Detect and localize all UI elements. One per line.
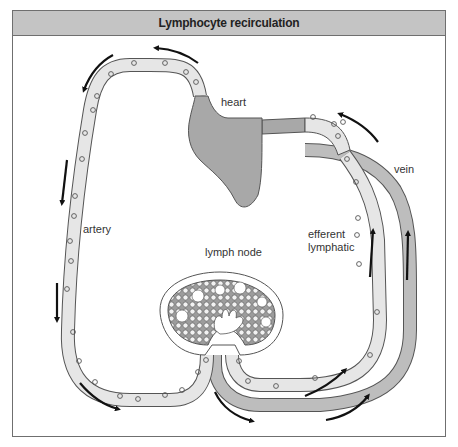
- label-heart: heart: [221, 96, 246, 109]
- heart-outflow: [262, 118, 305, 134]
- arrow-left-mid: [62, 160, 67, 203]
- label-efferent: efferent: [308, 228, 345, 241]
- label-lymph-node: lymph node: [205, 246, 262, 259]
- lymph-node: [160, 272, 283, 355]
- label-vein: vein: [394, 163, 414, 176]
- arrow-vein-up: [407, 233, 408, 280]
- circulation-diagram: [0, 0, 458, 447]
- label-lymphatic: lymphatic: [308, 241, 354, 254]
- heart-shape: [188, 96, 262, 207]
- label-artery: artery: [83, 223, 111, 236]
